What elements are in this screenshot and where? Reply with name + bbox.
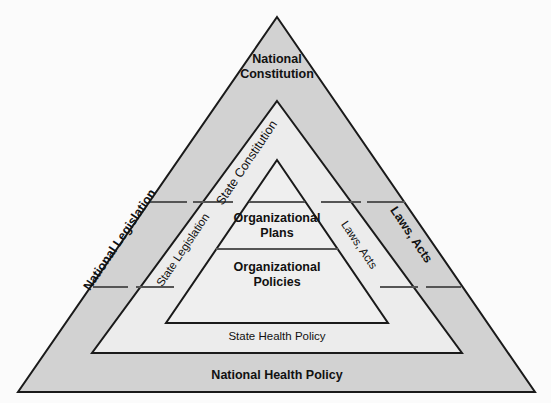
label-organizational-plans-line2: Plans bbox=[260, 226, 293, 240]
label-organizational-plans-line1: Organizational bbox=[234, 211, 321, 225]
label-organizational-policies-line1: Organizational bbox=[234, 260, 321, 274]
label-state-health-policy: State Health Policy bbox=[228, 330, 325, 342]
pyramid-diagram: NationalConstitution State Constitution … bbox=[0, 0, 551, 403]
label-organizational-policies-line2: Policies bbox=[253, 275, 300, 289]
label-national-health-policy: National Health Policy bbox=[211, 368, 342, 382]
pyramid-svg: NationalConstitution State Constitution … bbox=[0, 0, 551, 403]
